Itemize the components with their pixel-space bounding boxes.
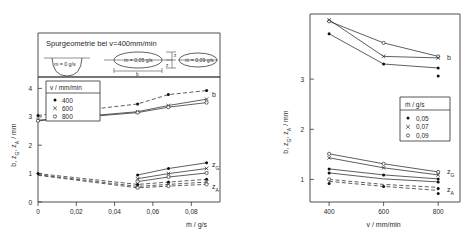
right-ytick-3: 3 (300, 76, 304, 83)
left-annot-zg: zG (212, 161, 220, 171)
cross-section-1-label: ṁ = 0,05 g/s (124, 57, 153, 63)
right-legend-label-2: 0,09 (416, 132, 429, 139)
left-x-axis-label: ṁ / g/s (186, 221, 208, 229)
right-annot-za: zA (447, 186, 455, 196)
left-xtick-2: 0,04 (108, 208, 121, 215)
cross-section-0: ṁ = 0 g/s (44, 58, 90, 76)
left-xtick-4: 0,08 (185, 208, 198, 215)
left-series-za: zA (37, 172, 220, 193)
left-xtick-1: 0,02 (70, 208, 83, 215)
left-xtick-3: 0,06 (147, 208, 160, 215)
cross-section-0-label: ṁ = 0 g/s (54, 61, 76, 67)
right-series-za: zA (328, 178, 455, 196)
right-legend-label-0: 0,05 (416, 115, 429, 122)
left-panel: Spurgeometrie bei v=400mm/min ṁ = 0 g/s … (0, 0, 240, 244)
left-ytick-1: 1 (28, 170, 32, 177)
right-xtick-1: 600 (378, 208, 389, 215)
left-ytick-3: 3 (28, 113, 32, 120)
right-legend: ṁ / g/s 0,05 0,07 0,09 (400, 97, 450, 141)
left-y-axis-label: b, zG, zA / mm (10, 123, 20, 167)
right-panel: 1 2 3 b, zG, zA / mm 400 600 800 v / mm/… (240, 0, 474, 244)
right-series-zg: zG (327, 152, 454, 183)
dim-label-zg: z (174, 53, 177, 58)
right-x-axis: 400 600 800 v / mm/min (324, 202, 444, 228)
left-legend-label-0: 400 (62, 97, 73, 104)
right-annot-b: b (447, 54, 451, 61)
right-x-axis-label: v / mm/min (366, 221, 400, 228)
right-annot-zg: zG (447, 168, 455, 178)
right-legend-label-1: 0,07 (416, 123, 429, 130)
left-legend-label-2: 800 (62, 113, 73, 120)
left-legend-label-1: 600 (62, 105, 73, 112)
dim-label-b: b (136, 72, 139, 77)
right-xtick-2: 800 (433, 208, 444, 215)
cross-section-header: Spurgeometrie bei v=400mm/min ṁ = 0 g/s … (38, 33, 220, 77)
left-x-axis: 0 0,02 0,04 0,06 0,08 ṁ / g/s (36, 202, 207, 229)
dim-label-za: z (166, 63, 169, 68)
cross-section-1: ṁ = 0,05 g/s b z z (104, 52, 177, 77)
left-legend-title: v / mm/min (50, 84, 82, 91)
right-y-axis-label: b, zG, zA / mm (282, 110, 292, 154)
cross-section-2: ṁ = 0,09 g/s (178, 53, 218, 67)
right-y-axis: 1 2 3 b, zG, zA / mm (282, 76, 314, 183)
right-legend-title: ṁ / g/s (405, 101, 425, 109)
cross-section-2-label: ṁ = 0,09 g/s (185, 57, 214, 63)
right-ytick-1: 1 (300, 176, 304, 183)
left-annot-b: b (212, 91, 216, 98)
left-ytick-4: 4 (28, 85, 32, 92)
left-annot-za: zA (212, 183, 220, 193)
left-xtick-0: 0 (36, 208, 40, 215)
left-ytick-0: 0 (28, 199, 32, 206)
right-ytick-2: 2 (300, 126, 304, 133)
left-y-axis: 0 1 2 3 4 b, zG, zA / mm (10, 85, 42, 206)
right-series-b: b (327, 18, 451, 78)
left-ytick-2: 2 (28, 142, 32, 149)
header-title: Spurgeometrie bei v=400mm/min (46, 39, 157, 48)
left-legend: v / mm/min 400 600 800 (46, 81, 100, 121)
right-xtick-0: 400 (324, 208, 335, 215)
